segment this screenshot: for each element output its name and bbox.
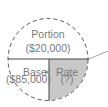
- portion-label: Portion: [31, 28, 64, 40]
- leader-line: [89, 51, 108, 59]
- rate-value: (?): [61, 73, 74, 85]
- portion-value: ($20,000): [26, 42, 71, 54]
- base-value: ($85,000): [6, 73, 51, 85]
- portion-base-rate-diagram: Portion ($20,000) Base × ($85,000) Rate …: [0, 0, 108, 107]
